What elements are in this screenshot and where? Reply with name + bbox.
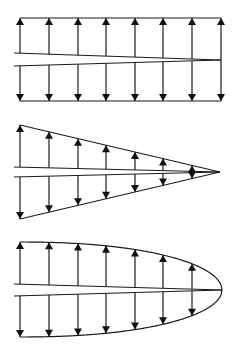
arrow-up-icon xyxy=(188,18,196,25)
arrow-up-icon xyxy=(74,244,82,251)
diagram-canvas xyxy=(0,0,239,360)
crack-lower-face xyxy=(14,60,221,66)
arrow-down-icon xyxy=(16,94,24,101)
parabolic-distribution-diagram xyxy=(14,242,222,337)
arrow-down-icon xyxy=(188,94,196,101)
arrow-down-icon xyxy=(102,326,110,333)
crack-upper-face xyxy=(14,53,221,60)
arrow-down-icon xyxy=(159,94,167,101)
arrow-down-icon xyxy=(45,94,53,101)
arrow-down-icon xyxy=(74,328,82,335)
arrow-down-icon xyxy=(102,94,110,101)
arrow-up-icon xyxy=(159,18,167,25)
arrow-up-icon xyxy=(102,18,110,25)
arrow-up-icon xyxy=(16,242,24,249)
envelope-top xyxy=(20,125,220,172)
crack-upper-face xyxy=(14,284,222,290)
arrow-up-icon xyxy=(131,18,139,25)
arrow-down-icon xyxy=(217,94,225,101)
linear-distribution-diagram xyxy=(14,125,220,219)
arrow-up-icon xyxy=(217,18,225,25)
arrow-down-icon xyxy=(74,94,82,101)
arrow-up-icon xyxy=(16,18,24,25)
uniform-distribution-diagram xyxy=(14,18,225,101)
arrow-up-icon xyxy=(74,18,82,25)
crack-lower-face xyxy=(14,290,222,296)
arrow-up-icon xyxy=(45,18,53,25)
arrow-up-icon xyxy=(102,246,110,253)
envelope-bottom xyxy=(20,172,220,219)
arrow-down-icon xyxy=(45,330,53,337)
arrow-up-icon xyxy=(45,242,53,249)
arrow-down-icon xyxy=(16,330,24,337)
stress-distribution-diagrams xyxy=(0,0,239,360)
arrow-down-icon xyxy=(131,94,139,101)
